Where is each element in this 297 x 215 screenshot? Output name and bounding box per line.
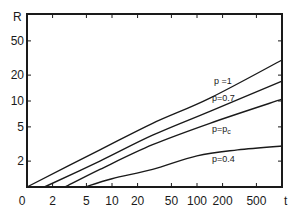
x-tick-label: 5 <box>83 194 90 208</box>
y-tick-label: 2 <box>17 154 24 168</box>
y-tick-label: 5 <box>17 120 24 134</box>
x-tick-label: 10 <box>105 194 119 208</box>
curve-label-p07: p=0.7 <box>212 93 235 103</box>
curve-label-p04: p=0.4 <box>212 154 235 164</box>
x-tick-label: 20 <box>131 194 145 208</box>
curve-label-pc: p=pc <box>212 124 231 135</box>
plot-frame <box>27 14 282 187</box>
y-tick-label: 10 <box>11 94 25 108</box>
y-tick-label: 20 <box>11 68 25 82</box>
y-tick-label: 50 <box>11 34 25 48</box>
x-tick-label: 500 <box>246 194 266 208</box>
x-axis-ticks: 025102050100200500 <box>19 14 267 208</box>
x-tick-label: 0 <box>19 194 26 208</box>
curves-group <box>27 60 282 187</box>
curve-p-0-4 <box>85 146 282 187</box>
chart: 025102050100200500 25102050 R t p =1 p=0… <box>0 0 297 215</box>
curve-p-0-7 <box>44 81 282 187</box>
x-tick-label: 100 <box>187 194 207 208</box>
curve-label-p1: p =1 <box>214 76 232 86</box>
x-tick-label: 50 <box>165 194 179 208</box>
x-axis-label: t <box>284 194 288 208</box>
x-tick-label: 2 <box>49 194 56 208</box>
curve-label-pc-sub: c <box>227 128 231 135</box>
x-tick-label: 200 <box>213 194 233 208</box>
curve-label-pc-main: p=p <box>212 124 227 134</box>
y-axis-label: R <box>13 10 22 24</box>
curve-p-1 <box>27 60 282 187</box>
curve-p-pc <box>65 99 282 187</box>
